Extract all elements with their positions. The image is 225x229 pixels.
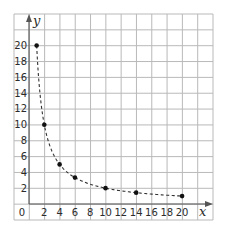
- origin-label: 0: [19, 207, 25, 218]
- x-tick-labels: 2468101214161820: [41, 207, 188, 218]
- x-tick-label: 16: [145, 207, 158, 218]
- x-axis-label: x: [199, 204, 207, 219]
- x-tick-label: 2: [41, 207, 47, 218]
- y-tick-label: 6: [21, 151, 27, 162]
- y-tick-label: 16: [14, 72, 27, 83]
- y-tick-label: 8: [21, 135, 27, 146]
- data-point: [134, 190, 139, 195]
- y-tick-label: 20: [14, 40, 27, 51]
- data-points: [34, 43, 184, 198]
- y-tick-label: 10: [14, 119, 27, 130]
- data-point: [73, 175, 78, 180]
- data-point: [34, 43, 39, 48]
- y-axis-arrow-icon: [26, 14, 32, 22]
- x-tick-label: 18: [160, 207, 173, 218]
- chart: x y 0 2468101214161820 2468101214161820: [0, 0, 225, 229]
- y-tick-label: 18: [14, 56, 27, 67]
- dashed-curve: [37, 46, 182, 197]
- x-tick-label: 14: [130, 207, 143, 218]
- data-point: [103, 186, 108, 191]
- data-point: [42, 122, 47, 127]
- y-tick-label: 14: [14, 88, 27, 99]
- x-tick-label: 8: [87, 207, 93, 218]
- x-tick-label: 10: [99, 207, 112, 218]
- x-tick-label: 12: [114, 207, 127, 218]
- y-tick-label: 2: [21, 183, 27, 194]
- y-tick-label: 4: [21, 167, 27, 178]
- x-tick-label: 20: [176, 207, 189, 218]
- y-axis-label: y: [32, 13, 41, 28]
- x-tick-label: 6: [72, 207, 78, 218]
- y-tick-label: 12: [14, 103, 27, 114]
- data-point: [57, 162, 62, 167]
- data-point: [180, 194, 185, 199]
- x-tick-label: 4: [56, 207, 62, 218]
- y-tick-labels: 2468101214161820: [14, 40, 27, 194]
